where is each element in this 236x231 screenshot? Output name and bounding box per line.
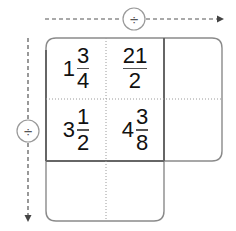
denominator: 2: [129, 70, 141, 92]
denominator: 4: [77, 70, 89, 92]
fraction: 3 8: [136, 106, 148, 154]
whole-part: 4: [122, 119, 134, 141]
denominator: 8: [136, 132, 148, 154]
answer-cell-r1-c3[interactable]: [164, 38, 222, 99]
fraction: 21 2: [123, 45, 147, 93]
whole-part: 1: [63, 58, 75, 80]
answer-cell-r3-c1[interactable]: [46, 161, 106, 221]
mixed-number: 1 3 4: [63, 45, 90, 93]
numerator: 3: [136, 106, 148, 128]
arrow-right-icon: [217, 16, 224, 23]
divide-icon: ÷: [17, 120, 39, 142]
numerator: 1: [77, 106, 89, 128]
grid-cell-r2-c1: 3 1 2: [46, 99, 106, 161]
grid-cell-r1-c2: 21 2: [106, 38, 164, 99]
mixed-number: 3 1 2: [63, 106, 90, 154]
grid-cell-r1-c1: 1 3 4: [46, 38, 106, 99]
answer-cell-r3-c2[interactable]: [106, 161, 164, 221]
numerator: 3: [77, 45, 89, 67]
denominator: 2: [77, 132, 89, 154]
fraction: 3 4: [77, 45, 89, 93]
numerator: 21: [123, 45, 147, 67]
fraction: 1 2: [77, 106, 89, 154]
whole-part: 3: [63, 119, 75, 141]
divide-icon: ÷: [123, 8, 145, 30]
mixed-number: 4 3 8: [122, 106, 149, 154]
arrow-down-icon: [25, 215, 32, 222]
answer-cell-r2-c3[interactable]: [164, 99, 222, 161]
grid-cell-r2-c2: 4 3 8: [106, 99, 164, 161]
